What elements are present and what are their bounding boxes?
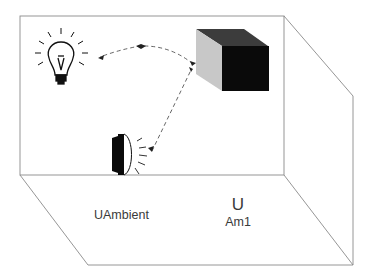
arrowheads xyxy=(98,44,196,152)
ambient-label: UAmbient xyxy=(94,208,149,222)
path-cube-to-bulb xyxy=(100,46,193,64)
cube-icon xyxy=(196,29,269,91)
path-spotlight-to-cube xyxy=(152,70,191,151)
spotlight-icon xyxy=(112,134,147,175)
cube-front xyxy=(222,46,269,91)
arrow-icon xyxy=(98,55,104,60)
arrow-icon xyxy=(136,44,141,49)
symbol-label: U xyxy=(226,195,250,215)
light-paths xyxy=(100,46,193,151)
floor-right-edge xyxy=(284,175,353,265)
light-bulb-icon xyxy=(35,28,88,84)
arrow-icon xyxy=(141,44,146,49)
room-diagram xyxy=(0,0,366,279)
arrow-icon xyxy=(189,67,193,72)
floor-left-front-edge xyxy=(20,175,353,265)
subscript-label: Am1 xyxy=(221,215,255,229)
arrow-icon xyxy=(190,61,196,66)
right-wall-edge xyxy=(284,16,353,265)
